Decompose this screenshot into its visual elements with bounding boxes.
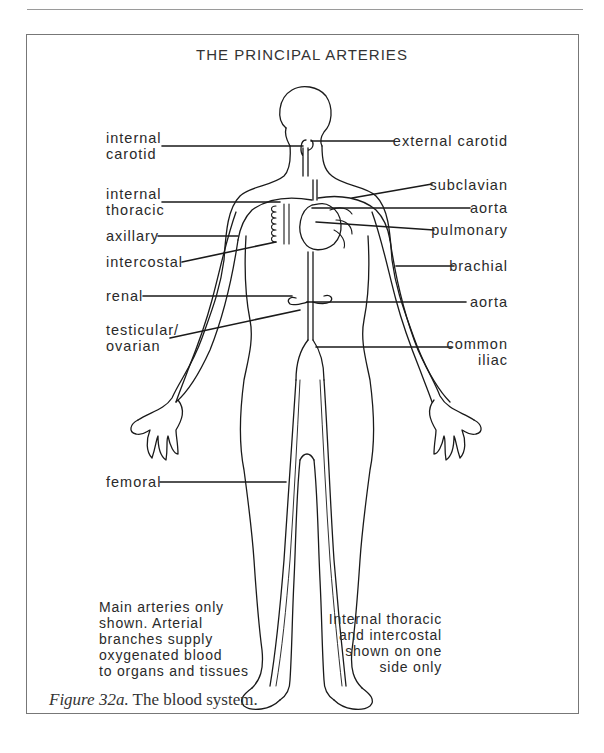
label-internal-thoracic: internal thoracic xyxy=(106,186,165,218)
note-one-side: Internal thoracic and intercostal shown … xyxy=(329,611,442,675)
label-axillary: axillary xyxy=(106,228,159,244)
label-external-carotid: external carotid xyxy=(393,133,508,149)
label-intercostal: intercostal xyxy=(106,254,183,270)
label-common-iliac: common iliac xyxy=(446,336,508,368)
note-main-arteries: Main arteries only shown. Arterial branc… xyxy=(99,599,249,679)
caption-text: The blood system. xyxy=(129,690,258,709)
figure-caption: Figure 32a. The blood system. xyxy=(49,690,258,710)
label-pulmonary: pulmonary xyxy=(431,222,508,238)
human-arteries-illustration xyxy=(0,0,604,753)
label-femoral: femoral xyxy=(106,474,161,490)
label-brachial: brachial xyxy=(449,258,508,274)
leader-lines xyxy=(143,141,470,482)
label-aorta-upper: aorta xyxy=(470,200,508,216)
label-internal-carotid: internal carotid xyxy=(106,130,162,162)
label-testicular-ovarian: testicular/ ovarian xyxy=(106,322,179,354)
caption-label: Figure 32a. xyxy=(49,690,129,709)
label-renal: renal xyxy=(106,288,143,304)
label-aorta-lower: aorta xyxy=(470,294,508,310)
label-subclavian: subclavian xyxy=(429,177,508,193)
